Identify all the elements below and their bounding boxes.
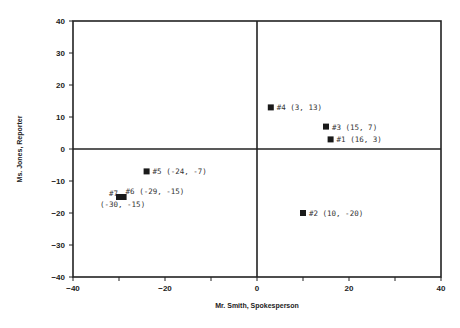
y-tick-label: 0 xyxy=(61,145,66,154)
data-point-label: #2 (10, -20) xyxy=(309,209,363,218)
x-tick-label: 40 xyxy=(437,284,446,293)
x-tick-label: −40 xyxy=(66,284,80,293)
y-tick-label: −40 xyxy=(51,273,65,282)
data-point-label: #3 (15, 7) xyxy=(332,123,377,132)
x-axis-label: Mr. Smith, Spokesperson xyxy=(215,302,299,310)
data-point-label: #6 (-29, -15) xyxy=(126,187,185,196)
data-point-label: (-30, -15) xyxy=(100,200,145,209)
y-tick-label: −20 xyxy=(51,209,65,218)
scatter-chart: −40−30−20−10010203040−40−2002040Mr. Smit… xyxy=(0,0,460,328)
x-tick-label: 0 xyxy=(255,284,260,293)
data-point-label: #5 (-24, -7) xyxy=(153,167,207,176)
data-point-label: #4 (3, 13) xyxy=(277,103,322,112)
x-tick-label: 20 xyxy=(345,284,354,293)
x-tick-label: −20 xyxy=(158,284,172,293)
data-point-label: #7 xyxy=(109,189,118,198)
y-tick-label: 10 xyxy=(56,113,65,122)
y-axis-label: Ms. Jones, Reporter xyxy=(16,115,24,182)
y-tick-label: 40 xyxy=(56,17,65,26)
y-tick-label: −30 xyxy=(51,241,65,250)
data-point-marker xyxy=(300,210,306,216)
data-point-label: #1 (16, 3) xyxy=(337,135,382,144)
data-point-marker xyxy=(328,136,334,142)
data-point-marker xyxy=(323,124,329,130)
y-tick-label: 20 xyxy=(56,81,65,90)
y-tick-label: −10 xyxy=(51,177,65,186)
data-point-marker xyxy=(144,168,150,174)
y-tick-label: 30 xyxy=(56,49,65,58)
data-point-marker xyxy=(268,104,274,110)
